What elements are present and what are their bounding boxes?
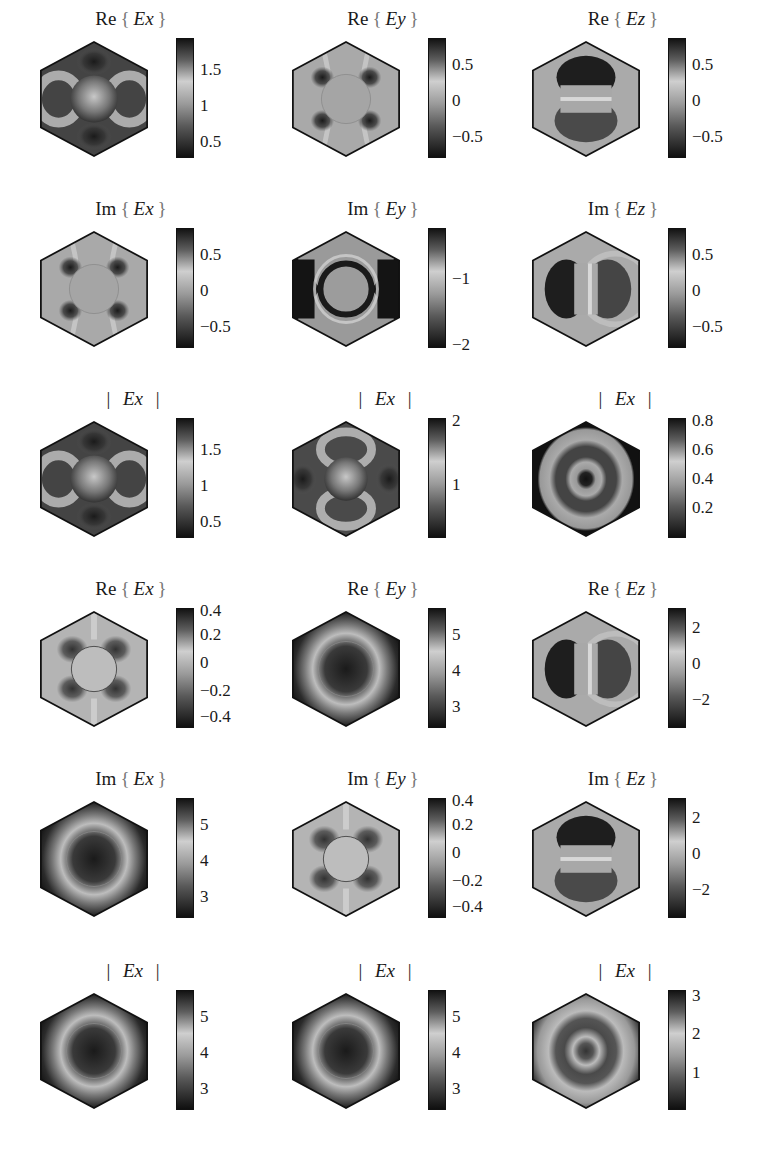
- colorbar-tick-label: −0.5: [452, 128, 483, 145]
- colorbar: [668, 608, 686, 728]
- field-panel-r1c1: Re{Ex}: [38, 0, 292, 190]
- colorbar: [668, 990, 686, 1110]
- field-panel-r5c1: Im{Ex}: [38, 760, 292, 950]
- colorbar-tick-label: 0: [692, 92, 701, 109]
- brace-close: }: [158, 198, 167, 219]
- colorbar-tick-label: 0: [692, 845, 701, 862]
- colorbar-tick-label: 5: [200, 816, 209, 833]
- colorbar-tick-label: −0.5: [692, 128, 723, 145]
- colorbar: [428, 608, 446, 728]
- brace-open: {: [613, 578, 622, 599]
- colorbar: [668, 228, 686, 348]
- field-panel-r5c2: Im{Ey}: [290, 760, 544, 950]
- field-name: Ex: [134, 198, 154, 219]
- colorbar-tick-label: 0: [200, 282, 209, 299]
- panel-title: Im{Ex}: [38, 198, 228, 220]
- field-panel-r6c3: | Ex |: [530, 952, 762, 1142]
- colorbar-tick-label: 2: [692, 809, 701, 826]
- field-panel-r4c3: Re{Ez}: [530, 570, 762, 760]
- brace-close: }: [410, 578, 419, 599]
- panel-title: Im{Ez}: [530, 768, 720, 790]
- colorbar-tick-label: 0.5: [692, 56, 713, 73]
- brace-open: {: [372, 768, 381, 789]
- title-prefix: Im: [588, 768, 609, 789]
- field-name: Ez: [626, 198, 645, 219]
- colorbar-tick-label: −0.4: [200, 708, 231, 725]
- brace-open: {: [120, 198, 129, 219]
- colorbar-tick-label: 0: [200, 654, 209, 671]
- colorbar-tick-label: 0.2: [452, 816, 473, 833]
- colorbar: [176, 990, 194, 1110]
- colorbar-tick-label: 3: [692, 987, 701, 1004]
- colorbar-tick-label: 3: [200, 1080, 209, 1097]
- brace-open: {: [120, 8, 129, 29]
- title-prefix: Im: [95, 198, 116, 219]
- brace-close: }: [649, 8, 658, 29]
- field-panel-r1c2: Re{Ey}: [290, 0, 544, 190]
- title-prefix: |: [598, 960, 607, 981]
- panel-title: | Ex |: [38, 960, 228, 982]
- title-prefix: Re: [588, 8, 609, 29]
- title-prefix: Im: [95, 768, 116, 789]
- title-suffix: |: [643, 388, 652, 409]
- panel-title: Im{Ez}: [530, 198, 720, 220]
- colorbar-tick-label: −2: [692, 881, 710, 898]
- colorbar: [176, 608, 194, 728]
- panel-title: Im{Ey}: [290, 768, 480, 790]
- brace-open: {: [120, 578, 129, 599]
- field-name: Ey: [386, 768, 406, 789]
- field-name: Ex: [615, 960, 635, 981]
- colorbar: [428, 228, 446, 348]
- field-panel-r3c2: | Ex |: [290, 380, 544, 570]
- title-prefix: |: [358, 960, 367, 981]
- colorbar-tick-label: 0: [452, 92, 461, 109]
- field-panel-r2c3: Im{Ez}: [530, 190, 762, 380]
- colorbar-tick-label: 0.5: [200, 513, 221, 530]
- title-prefix: Re: [347, 8, 368, 29]
- colorbar-tick-label: 3: [452, 1080, 461, 1097]
- brace-open: {: [613, 768, 622, 789]
- field-panel-r6c1: | Ex |: [38, 952, 292, 1142]
- field-panel-r4c1: Re{Ex}: [38, 570, 292, 760]
- colorbar: [176, 38, 194, 158]
- field-panel-r4c2: Re{Ey}: [290, 570, 544, 760]
- brace-open: {: [613, 8, 622, 29]
- panel-title: | Ex |: [290, 960, 480, 982]
- brace-close: }: [410, 8, 419, 29]
- brace-close: }: [649, 768, 658, 789]
- colorbar-tick-label: 2: [452, 412, 461, 429]
- colorbar-tick-label: 1: [452, 476, 461, 493]
- colorbar-tick-label: 1.5: [200, 61, 221, 78]
- colorbar-tick-label: 0.8: [692, 412, 713, 429]
- colorbar-tick-label: 0.4: [200, 602, 221, 619]
- colorbar-tick-label: −0.2: [452, 872, 483, 889]
- colorbar-tick-label: 4: [200, 852, 209, 869]
- field-panel-r3c3: | Ex |: [530, 380, 762, 570]
- colorbar-tick-label: −0.2: [200, 682, 231, 699]
- colorbar-tick-label: 0.5: [200, 246, 221, 263]
- panel-title: Re{Ex}: [38, 578, 228, 600]
- colorbar: [428, 798, 446, 918]
- title-prefix: Im: [347, 198, 368, 219]
- colorbar-tick-label: 0.4: [452, 792, 473, 809]
- colorbar-tick-label: 2: [692, 619, 701, 636]
- field-panel-r3c1: | Ex |: [38, 380, 292, 570]
- panel-title: Re{Ez}: [530, 578, 720, 600]
- colorbar-tick-label: −2: [692, 691, 710, 708]
- title-prefix: |: [598, 388, 607, 409]
- colorbar: [176, 228, 194, 348]
- panel-title: | Ex |: [38, 388, 228, 410]
- colorbar-tick-label: 0.2: [692, 499, 713, 516]
- colorbar-tick-label: 0.4: [692, 470, 713, 487]
- colorbar: [668, 418, 686, 538]
- field-name: Ez: [626, 578, 645, 599]
- colorbar: [428, 418, 446, 538]
- title-prefix: Im: [347, 768, 368, 789]
- brace-close: }: [410, 198, 419, 219]
- colorbar-tick-label: 3: [200, 888, 209, 905]
- colorbar: [428, 990, 446, 1110]
- colorbar-tick-label: −0.5: [200, 318, 231, 335]
- title-prefix: Re: [95, 8, 116, 29]
- colorbar-tick-label: 1: [200, 97, 209, 114]
- field-name: Ex: [615, 388, 635, 409]
